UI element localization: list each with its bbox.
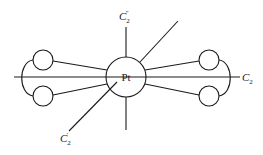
c2-prime-axis-upper [140,21,178,62]
ligand-circle-right-lower [199,86,219,106]
c2-double-prime-label: C2″ [119,9,130,25]
c2-label: C2 [242,71,253,86]
bond-left-upper [53,61,107,70]
ligand-circle-right-upper [199,50,219,70]
pt-label: Pt [121,71,130,83]
c2-prime-label: C2′ [60,131,71,147]
chelate-loop-right [219,60,230,96]
bond-right-upper [145,61,199,70]
pt-complex-symmetry-diagram: Pt C2″ C2 C2′ [0,0,263,155]
ligand-circle-left-lower [33,86,53,106]
chelate-loop-left [22,60,33,96]
ligand-circle-left-upper [33,50,53,70]
bond-left-lower [53,84,107,95]
bond-right-lower [145,84,199,95]
